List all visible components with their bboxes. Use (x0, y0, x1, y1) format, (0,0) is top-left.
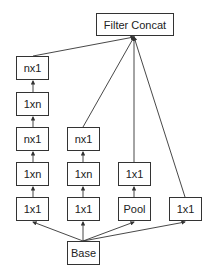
edge-c1-concat (33, 37, 134, 56)
edge-base-pool (83, 222, 134, 241)
node-filter-concat: Filter Concat (96, 13, 174, 36)
node-c3-1x1: 1x1 (118, 162, 151, 186)
node-c2-1xn: 1xn (67, 162, 100, 186)
edge-c2-concat (83, 37, 134, 127)
node-base: Base (67, 241, 100, 265)
edge-base-c4 (83, 222, 185, 241)
node-c2-1x1: 1x1 (67, 197, 100, 221)
node-c1-1x1: 1x1 (16, 197, 49, 221)
node-c1-nx1-mid: nx1 (16, 127, 49, 151)
node-c4-1x1: 1x1 (169, 197, 202, 221)
node-c3-pool: Pool (118, 197, 151, 221)
node-c2-nx1: nx1 (67, 127, 100, 151)
node-c1-1xn-top: 1xn (16, 92, 49, 116)
node-c1-1xn-bot: 1xn (16, 162, 49, 186)
edge-base-c1 (33, 222, 83, 241)
node-c1-nx1-top: nx1 (16, 56, 49, 80)
